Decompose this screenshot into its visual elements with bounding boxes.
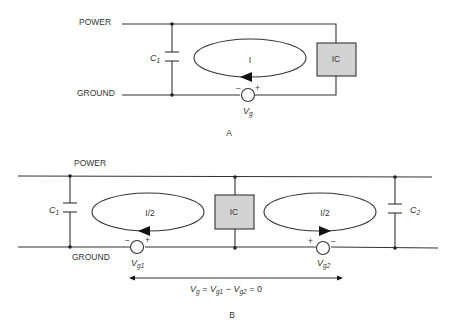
capacitor-label-c1-a: C1 — [150, 53, 161, 64]
source-label-vg2: Vg2 — [317, 258, 331, 270]
caption-a: A — [226, 128, 232, 138]
double-arrow-icon — [129, 276, 343, 281]
source-label-vg-a: Vg — [243, 106, 253, 118]
ground-label-a: GROUND — [77, 88, 115, 98]
ic-label-a: IC — [332, 54, 341, 64]
power-label-a: POWER — [79, 17, 111, 27]
loop-arrow-icon-right-b — [319, 226, 331, 236]
power-label-b: POWER — [74, 158, 106, 168]
circuit-diagrams: POWER GROUND C1 IC I − + Vg A P — [0, 0, 454, 330]
diagram-a: POWER GROUND C1 IC I − + Vg A — [77, 17, 356, 138]
capacitor-label-c1-b: C1 — [49, 205, 60, 216]
power-rail-b — [18, 176, 432, 177]
ic-label-b: IC — [230, 207, 239, 217]
loop-arrow-icon-a — [240, 72, 252, 82]
diagram-b: POWER GROUND C1 C2 — [18, 158, 438, 320]
source-minus-vg2: − — [331, 236, 336, 246]
capacitor-c1-b — [63, 174, 77, 249]
capacitor-c2-b — [388, 175, 402, 250]
voltage-source-vg2-b — [317, 242, 330, 255]
equation-text: Vg = Vg1 − Vg2 = 0 — [190, 284, 262, 296]
ground-rail-a-right — [255, 76, 336, 95]
source-plus-vg1: + — [145, 235, 150, 245]
source-minus-a: − — [236, 83, 241, 93]
source-label-vg1: Vg1 — [131, 258, 145, 270]
caption-b: B — [229, 310, 235, 320]
capacitor-c1-a — [165, 22, 179, 97]
loop-label-left-b: I/2 — [145, 208, 155, 218]
source-plus-vg2: + — [308, 236, 313, 246]
voltage-source-vg1-b — [131, 241, 144, 254]
ground-rail-b-3 — [331, 247, 438, 248]
capacitor-label-c2-b: C2 — [410, 205, 421, 216]
voltage-source-vg-a — [242, 89, 255, 102]
loop-label-a: I — [249, 55, 251, 65]
loop-label-right-b: I/2 — [320, 208, 330, 218]
source-plus-a: + — [255, 83, 260, 93]
ground-label-b: GROUND — [72, 252, 110, 262]
source-minus-vg1: − — [125, 235, 130, 245]
